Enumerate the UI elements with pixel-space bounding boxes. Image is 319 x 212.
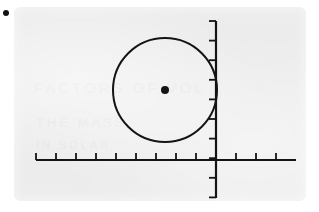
- graph-figure: [0, 0, 319, 212]
- plotted-shapes: [113, 38, 217, 142]
- figure-screenshot: FACTORS OF VOL THE MASS IN SOLAR: [0, 0, 319, 212]
- x-axis: [36, 153, 296, 160]
- circle-center-point: [161, 86, 169, 94]
